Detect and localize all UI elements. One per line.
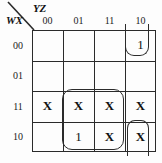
row-header-1: 01 (6, 70, 30, 81)
cell-row11-col00[interactable]: X (32, 91, 63, 122)
karnaugh-map-diagram: YZ WX 00 01 11 10 00 01 11 10 1 X X X (0, 0, 162, 163)
column-header-0: 00 (32, 15, 63, 26)
column-variable-label: YZ (33, 2, 46, 14)
kmap-grid: 1 X X X X 1 X X (32, 30, 156, 152)
row-header-2: 11 (6, 101, 30, 112)
column-header-2: 11 (94, 15, 125, 26)
column-header-3: 10 (125, 15, 156, 26)
cell-row00-col10[interactable]: 1 (125, 30, 156, 61)
column-header-1: 01 (63, 15, 94, 26)
cell-row10-col01[interactable]: 1 (63, 122, 94, 153)
cell-row00-col00[interactable] (32, 30, 63, 61)
cell-row10-col11[interactable]: X (94, 122, 125, 153)
cell-row10-col00[interactable] (32, 122, 63, 153)
cell-row01-col11[interactable] (94, 61, 125, 92)
cell-row01-col01[interactable] (63, 61, 94, 92)
row-variable-label: WX (6, 14, 23, 26)
cell-row01-col00[interactable] (32, 61, 63, 92)
cell-row01-col10[interactable] (125, 61, 156, 92)
cell-row10-col10[interactable]: X (125, 122, 156, 153)
cell-row11-col10[interactable]: X (125, 91, 156, 122)
cell-row00-col11[interactable] (94, 30, 125, 61)
row-header-0: 00 (6, 40, 30, 51)
cell-row00-col01[interactable] (63, 30, 94, 61)
cell-row11-col01[interactable]: X (63, 91, 94, 122)
row-header-3: 10 (6, 131, 30, 142)
cell-row11-col11[interactable]: X (94, 91, 125, 122)
